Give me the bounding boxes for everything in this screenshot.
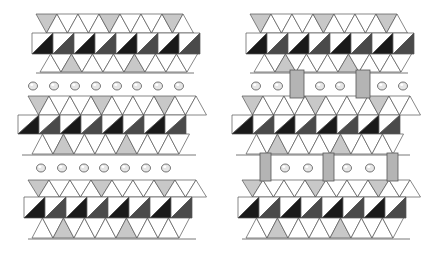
interlayer-cation — [142, 164, 151, 172]
interlayer-cation — [113, 82, 122, 90]
cation-highlight — [30, 84, 33, 86]
interlayer-cation — [304, 164, 313, 172]
cation-highlight — [38, 166, 41, 168]
interlayer-cation — [58, 164, 67, 172]
sheet-layer — [32, 14, 200, 73]
pillar — [323, 153, 334, 181]
sheet-layer — [232, 96, 421, 155]
cation-highlight — [143, 166, 146, 168]
cation-highlight — [59, 166, 62, 168]
interlayer-cation — [252, 82, 261, 90]
interlayer-cation — [50, 82, 59, 90]
interlayer-cation — [80, 164, 89, 172]
crystal-structure-diagram — [0, 0, 428, 255]
cation-highlight — [81, 166, 84, 168]
interlayer-cation — [366, 164, 375, 172]
cation-highlight — [275, 84, 278, 86]
panel-right — [232, 14, 421, 239]
cation-highlight — [317, 84, 320, 86]
cation-highlight — [176, 84, 179, 86]
interlayer-cation — [316, 82, 325, 90]
pillar — [387, 153, 398, 181]
cation-highlight — [337, 84, 340, 86]
cation-highlight — [379, 84, 382, 86]
interlayer-cation — [281, 164, 290, 172]
sheet-layer — [246, 14, 414, 73]
interlayer-cation — [175, 82, 184, 90]
cation-highlight — [253, 84, 256, 86]
interlayer-cation — [133, 82, 142, 90]
sheet-layer — [24, 180, 207, 239]
interlayer-cation — [399, 82, 408, 90]
cation-highlight — [101, 166, 104, 168]
cation-highlight — [305, 166, 308, 168]
cation-highlight — [122, 166, 125, 168]
cation-highlight — [51, 84, 54, 86]
cation-highlight — [367, 166, 370, 168]
interlayer-cation — [343, 164, 352, 172]
cation-highlight — [114, 84, 117, 86]
cation-highlight — [163, 166, 166, 168]
interlayer-cation — [274, 82, 283, 90]
interlayer-cation — [29, 82, 38, 90]
interlayer-cation — [71, 82, 80, 90]
pillar — [290, 70, 304, 98]
interlayer-cation — [378, 82, 387, 90]
interlayer-cation — [162, 164, 171, 172]
interlayer-cation — [121, 164, 130, 172]
sheet-layer — [18, 96, 207, 155]
interlayer-cation — [154, 82, 163, 90]
interlayer-cation — [100, 164, 109, 172]
cation-highlight — [344, 166, 347, 168]
cation-highlight — [155, 84, 158, 86]
cation-highlight — [134, 84, 137, 86]
interlayer-cation — [92, 82, 101, 90]
sheet-layer — [238, 180, 421, 239]
interlayer-cation — [336, 82, 345, 90]
panel-left — [18, 14, 207, 239]
cation-highlight — [400, 84, 403, 86]
cation-highlight — [72, 84, 75, 86]
cation-highlight — [282, 166, 285, 168]
cation-highlight — [93, 84, 96, 86]
pillar — [260, 153, 271, 181]
interlayer-cation — [37, 164, 46, 172]
pillar — [356, 70, 370, 98]
